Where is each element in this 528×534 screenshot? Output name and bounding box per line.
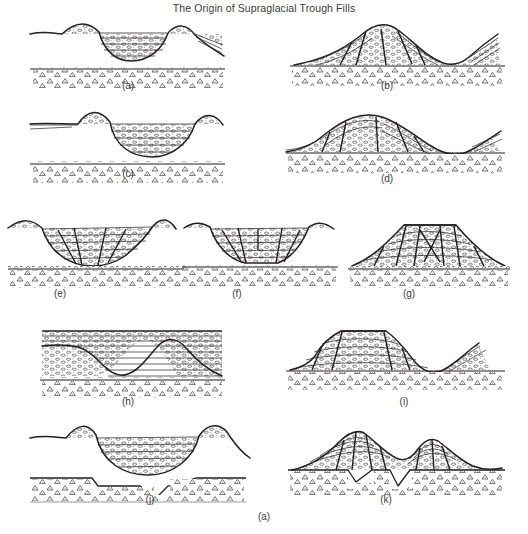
panel-e (8, 220, 186, 288)
panel-label-a: (a) (108, 80, 148, 91)
panel-label-h: (h) (108, 396, 148, 407)
panel-i (286, 331, 505, 390)
figure-canvas (0, 0, 528, 534)
panel-label-e: (e) (40, 288, 80, 299)
panel-f (182, 223, 338, 286)
panel-d (286, 115, 505, 173)
panel-label-i: (i) (384, 396, 424, 407)
figure-caption: (a) (0, 511, 528, 522)
panel-label-g: (g) (389, 288, 429, 299)
panel-h (40, 331, 225, 398)
panel-k (288, 431, 505, 495)
panel-label-f: (f) (217, 288, 257, 299)
panel-label-c: (c) (108, 168, 148, 179)
panel-label-b: (b) (367, 80, 407, 91)
panel-j (30, 426, 250, 502)
panel-label-k: (k) (366, 494, 406, 505)
panel-label-d: (d) (367, 173, 407, 184)
panel-g (348, 225, 510, 288)
panel-b (290, 24, 505, 86)
panel-a (30, 24, 225, 88)
panel-label-j: (j) (130, 494, 170, 505)
